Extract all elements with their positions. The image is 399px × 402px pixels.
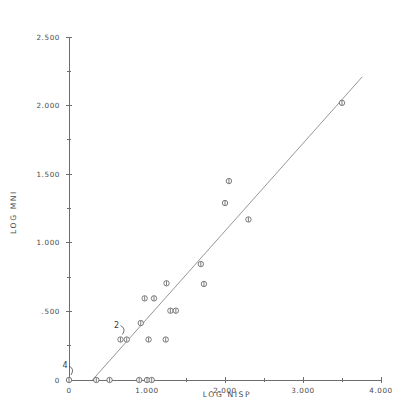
data-points <box>66 100 344 383</box>
data-point-marker <box>137 377 142 382</box>
x-tick-label: 0 <box>66 386 71 395</box>
data-point-marker <box>94 377 99 382</box>
x-tick-label: 1.000 <box>135 386 159 395</box>
x-tick-label: 3.000 <box>291 386 315 395</box>
point-count-annotations: 42 <box>62 321 124 375</box>
y-tick-label: 0 <box>55 376 60 385</box>
annotation-pointer <box>120 326 124 335</box>
y-axis-title: LOG MNI <box>9 190 18 234</box>
scatter-plot-figure: 0.5001.0001.5002.0002.500 01.0002.0003.0… <box>0 0 399 402</box>
x-axis-title: LOG NISP <box>203 390 251 399</box>
chart-canvas: 0.5001.0001.5002.0002.500 01.0002.0003.0… <box>0 0 399 402</box>
data-point-marker <box>246 217 251 222</box>
point-count-label: 2 <box>114 321 119 330</box>
data-point-marker <box>201 281 206 286</box>
data-point-marker <box>149 377 154 382</box>
y-tick-label: 2.000 <box>36 101 60 110</box>
y-tick-label: 1.500 <box>36 170 60 179</box>
data-point-marker <box>339 100 344 105</box>
regression-line <box>92 77 362 380</box>
y-tick-label: 2.500 <box>36 33 60 42</box>
data-point-marker <box>226 178 231 183</box>
point-count-label: 4 <box>62 361 67 370</box>
data-point-marker <box>151 296 156 301</box>
data-point-marker <box>198 261 203 266</box>
data-point-marker <box>146 337 151 342</box>
data-point-marker <box>66 377 71 382</box>
data-point-marker <box>142 296 147 301</box>
data-point-marker <box>124 337 129 342</box>
y-tick-label: .500 <box>42 307 60 316</box>
data-point-marker <box>138 320 143 325</box>
annotation-pointer <box>69 366 73 375</box>
y-axis-ticks: 0.5001.0001.5002.0002.500 <box>36 33 72 385</box>
y-tick-label: 1.000 <box>36 238 60 247</box>
data-point-marker <box>164 281 169 286</box>
data-point-marker <box>163 337 168 342</box>
data-point-marker <box>107 377 112 382</box>
x-tick-label: 4.000 <box>369 386 393 395</box>
data-point-marker <box>222 200 227 205</box>
data-point-marker <box>173 308 178 313</box>
data-point-marker <box>118 337 123 342</box>
data-point-marker <box>168 308 173 313</box>
